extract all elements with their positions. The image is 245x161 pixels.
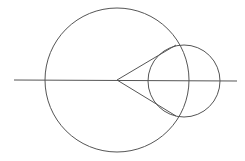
lower-tangent-line — [117, 80, 176, 116]
circle-tangent-diagram — [0, 0, 245, 161]
upper-tangent-line — [117, 45, 176, 80]
horizontal-axis-line — [14, 80, 237, 81]
